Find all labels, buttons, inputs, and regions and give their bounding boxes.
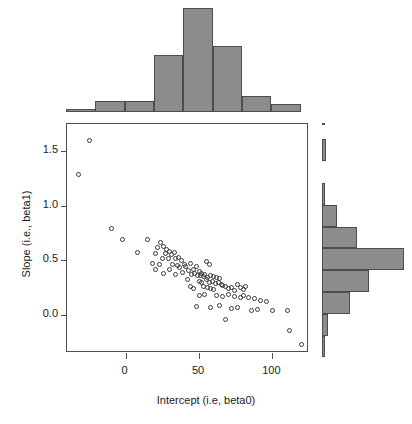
scatter-point xyxy=(270,308,275,313)
x-axis-title: Intercept (i.e, beta0) xyxy=(0,394,412,406)
scatter-point xyxy=(188,261,193,266)
x-tick-label: 100 xyxy=(262,364,280,376)
chart-figure: 0.00.51.01.5 050100 Intercept (i.e, beta… xyxy=(0,0,412,424)
scatter-point xyxy=(287,328,292,333)
scatter-point xyxy=(258,298,263,303)
scatter-point xyxy=(194,304,199,309)
scatter-point xyxy=(145,237,150,242)
scatter-point xyxy=(214,293,219,298)
top-histogram-bar xyxy=(242,96,271,112)
x-tick-mark xyxy=(272,353,273,359)
y-tick-label: 1.0 xyxy=(43,198,58,210)
scatter-point xyxy=(252,296,257,301)
scatter-point xyxy=(120,237,125,242)
y-tick-label: 1.5 xyxy=(43,143,58,155)
scatter-point xyxy=(150,261,155,266)
top-histogram-bar xyxy=(271,104,300,112)
scatter-point xyxy=(155,245,160,250)
scatter-plot-panel xyxy=(66,123,308,352)
right-histogram-bar xyxy=(322,227,357,249)
scatter-point xyxy=(264,299,269,304)
scatter-point xyxy=(180,270,185,275)
right-histogram-bar xyxy=(322,139,326,161)
scatter-point xyxy=(299,342,304,347)
scatter-point xyxy=(153,267,158,272)
right-histogram-bar xyxy=(322,336,325,358)
scatter-point xyxy=(235,305,240,310)
top-histogram-bar xyxy=(125,101,154,112)
scatter-point xyxy=(185,277,190,282)
top-histogram-bar xyxy=(154,55,183,112)
scatter-point xyxy=(208,305,213,310)
scatter-point xyxy=(157,262,162,267)
scatter-point xyxy=(153,251,158,256)
scatter-point xyxy=(161,271,166,276)
x-tick-label: 0 xyxy=(122,364,128,376)
y-tick-label: 0.5 xyxy=(43,252,58,264)
scatter-point-layer xyxy=(67,124,307,351)
scatter-point xyxy=(207,262,212,267)
scatter-point xyxy=(229,306,234,311)
scatter-point xyxy=(249,308,254,313)
right-histogram-bar xyxy=(322,292,350,314)
top-histogram-bar xyxy=(95,101,124,112)
right-marginal-histogram xyxy=(322,123,404,352)
top-histogram-bar xyxy=(66,109,95,112)
y-tick-mark xyxy=(61,315,67,316)
scatter-point xyxy=(211,287,216,292)
x-tick-mark xyxy=(126,353,127,359)
right-histogram-bar xyxy=(322,314,328,336)
right-histogram-bar xyxy=(322,183,325,205)
x-tick-label: 50 xyxy=(192,364,204,376)
y-tick-mark xyxy=(61,260,67,261)
right-histogram-bar xyxy=(322,205,337,227)
scatter-point xyxy=(285,308,290,313)
scatter-point xyxy=(255,307,260,312)
y-tick-mark xyxy=(61,206,67,207)
scatter-point xyxy=(232,288,237,293)
right-histogram-bar xyxy=(322,248,404,270)
scatter-point xyxy=(246,295,251,300)
scatter-point xyxy=(232,294,237,299)
scatter-point xyxy=(220,294,225,299)
scatter-point xyxy=(197,293,202,298)
y-axis-title: Slope (i.e., beta1) xyxy=(20,154,32,314)
scatter-point xyxy=(243,284,248,289)
scatter-point xyxy=(217,303,222,308)
top-marginal-histogram xyxy=(66,8,308,112)
scatter-point xyxy=(76,172,81,177)
right-histogram-bar xyxy=(322,123,325,125)
scatter-point xyxy=(109,226,114,231)
scatter-point xyxy=(160,256,165,261)
right-histogram-bar xyxy=(322,270,369,292)
scatter-point xyxy=(173,272,178,277)
scatter-point xyxy=(241,293,246,298)
x-tick-mark xyxy=(199,353,200,359)
scatter-point xyxy=(87,138,92,143)
scatter-point xyxy=(166,256,171,261)
scatter-point xyxy=(226,292,231,297)
scatter-point xyxy=(135,250,140,255)
scatter-point xyxy=(172,250,177,255)
y-tick-label: 0.0 xyxy=(43,307,58,319)
y-tick-mark xyxy=(61,151,67,152)
scatter-point xyxy=(202,292,207,297)
scatter-point xyxy=(167,267,172,272)
scatter-point xyxy=(191,286,196,291)
scatter-point xyxy=(223,317,228,322)
top-histogram-bar xyxy=(213,46,242,112)
top-histogram-bar xyxy=(183,8,212,112)
x-axis-tick-labels: 050100 xyxy=(66,362,308,378)
